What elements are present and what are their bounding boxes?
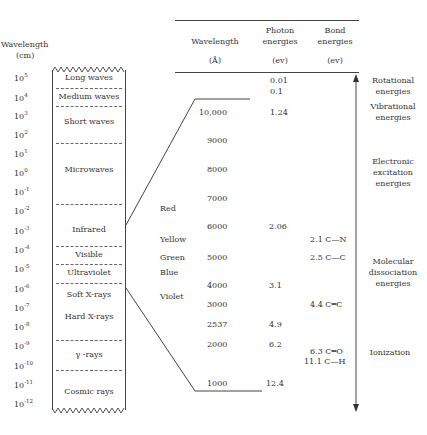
band-divider — [56, 106, 122, 107]
wl-1000: 1000 — [207, 379, 227, 388]
band-divider — [56, 370, 122, 371]
axis-tick-label: 10-6 — [14, 283, 30, 294]
pe-12.4: 12.4 — [266, 379, 284, 388]
axis-tick-label: 10-11 — [14, 379, 33, 390]
axis-tick-label: 103 — [14, 110, 28, 121]
band-divider — [56, 88, 122, 89]
band-divider — [56, 264, 122, 265]
axis-tick-label: 105 — [14, 72, 28, 83]
band-visible: Visible — [52, 250, 126, 259]
region-molecular: Molecular dissociation energies — [360, 256, 426, 289]
axis-tick-label: 10-2 — [14, 205, 30, 216]
pe-1.24: 1.24 — [270, 108, 288, 117]
band-microwaves: Microwaves — [52, 165, 126, 174]
be-c-dbl-c: 4.4 C═C — [310, 300, 342, 309]
wl-5000: 5000 — [207, 253, 227, 262]
band-medium-waves: Medium waves — [52, 92, 126, 101]
band-divider — [56, 340, 122, 341]
table-header-rule — [175, 72, 359, 73]
region-ionization: Ionization — [360, 348, 420, 357]
axis-tick-label: 10-5 — [14, 263, 30, 274]
axis-tick-label: 10-8 — [14, 321, 30, 332]
band-cosmic-rays: Cosmic rays — [52, 387, 126, 396]
header-bond-1: Bond — [310, 26, 360, 35]
band-divider — [56, 204, 122, 205]
axis-tick-label: 10-12 — [14, 398, 33, 409]
axis-title: Wavelength — [1, 40, 48, 49]
axis-tick-label: 104 — [14, 92, 28, 103]
color-green: Green — [160, 253, 185, 262]
wl-7000: 7000 — [207, 194, 227, 203]
axis-tick-label: 101 — [14, 148, 28, 159]
header-photon-2: energies — [255, 37, 305, 46]
color-blue: Blue — [160, 268, 178, 277]
band-infrared: Infrared — [52, 225, 126, 234]
header-wavelength: Wavelength — [180, 37, 250, 46]
wl-2537: 2537 — [207, 320, 227, 329]
band-divider — [56, 143, 122, 144]
wl-2000: 2000 — [207, 340, 227, 349]
pe-0.01: 0.01 — [270, 76, 288, 85]
color-red: Red — [160, 204, 176, 213]
be-c-c: 2.5 C—C — [310, 253, 346, 262]
header-bond-unit: (ev) — [310, 56, 360, 65]
axis-tick-label: 10-4 — [14, 244, 30, 255]
header-photon-unit: (ev) — [255, 56, 305, 65]
band-divider — [56, 283, 122, 284]
axis-tick-label: 10-7 — [14, 302, 30, 313]
connector-bottom — [126, 288, 262, 391]
axis-tick-label: 10-3 — [14, 225, 30, 236]
region-vibrational: Vibrational energies — [360, 101, 426, 123]
axis-tick-label: 10-1 — [14, 186, 30, 197]
axis-tick-label: 100 — [14, 167, 28, 178]
band-soft-x-rays: Soft X-rays — [52, 290, 126, 299]
pe-6.2: 6.2 — [269, 340, 282, 349]
region-rotational: Rotational energies — [360, 75, 426, 97]
pe-0.1: 0.1 — [270, 87, 283, 96]
color-violet: Violet — [160, 292, 184, 301]
be-c-n: 2.1 C—N — [310, 235, 346, 244]
axis-tick-label: 10-9 — [14, 340, 30, 351]
band-long-waves: Long waves — [52, 73, 126, 82]
band-ultraviolet: Ultraviolet — [52, 268, 126, 277]
band-gamma-rays: γ -rays — [52, 350, 126, 359]
region-electronic: Electronic excitation energies — [360, 156, 426, 189]
axis-tick-label: 102 — [14, 129, 28, 140]
wl-6000: 6000 — [207, 222, 227, 231]
pe-4.9: 4.9 — [269, 320, 282, 329]
wl-10000: 10,000 — [199, 108, 227, 117]
arrow-down-head — [353, 404, 359, 412]
header-wavelength-unit: (Å) — [180, 56, 250, 65]
band-hard-x-rays: Hard X-rays — [52, 312, 126, 321]
header-photon-1: Photon — [255, 26, 305, 35]
band-divider — [56, 246, 122, 247]
arrow-up-head — [353, 74, 359, 82]
pe-3.1: 3.1 — [269, 281, 282, 290]
band-short-waves: Short waves — [52, 117, 126, 126]
header-bond-2: energies — [310, 37, 360, 46]
table-top-rule — [175, 20, 359, 21]
be-c-dbl-o: 6.3 C═O — [310, 347, 343, 356]
color-yellow: Yellow — [160, 235, 186, 244]
pe-2.06: 2.06 — [269, 222, 287, 231]
wl-4000: 4000 — [207, 281, 227, 290]
axis-unit: (cm) — [16, 51, 34, 60]
wl-9000: 9000 — [207, 136, 227, 145]
wl-8000: 8000 — [207, 165, 227, 174]
connector-top — [126, 99, 250, 225]
axis-tick-label: 10-10 — [14, 360, 33, 371]
wl-3000: 3000 — [207, 300, 227, 309]
be-c-h: 11.1 C—H — [304, 357, 345, 366]
